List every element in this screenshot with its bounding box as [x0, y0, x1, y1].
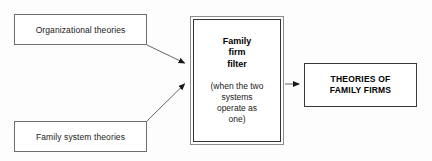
node-family-system-theories[interactable]: Family system theories	[14, 121, 147, 152]
node-theories-of-family-firms[interactable]: THEORIES OF FAMILY FIRMS	[304, 63, 417, 107]
node-family-system-theories-label: Family system theories	[36, 132, 125, 142]
node-organizational-theories[interactable]: Organizational theories	[14, 14, 147, 45]
node-theories-of-family-firms-label: THEORIES OF FAMILY FIRMS	[330, 74, 391, 97]
node-family-firm-filter[interactable]: Family firm filter (when the two systems…	[190, 16, 284, 145]
node-family-firm-filter-subtitle: (when the two systems operate as one)	[211, 81, 264, 125]
node-family-firm-filter-title: Family firm filter	[223, 36, 252, 71]
diagram-canvas: Organizational theories Family system th…	[0, 0, 432, 161]
connector-family-system-to-filter	[147, 84, 185, 121]
connector-organizational-to-filter	[147, 45, 185, 63]
node-family-firm-filter-inner-border: Family firm filter (when the two systems…	[193, 19, 281, 142]
node-organizational-theories-label: Organizational theories	[36, 25, 126, 35]
